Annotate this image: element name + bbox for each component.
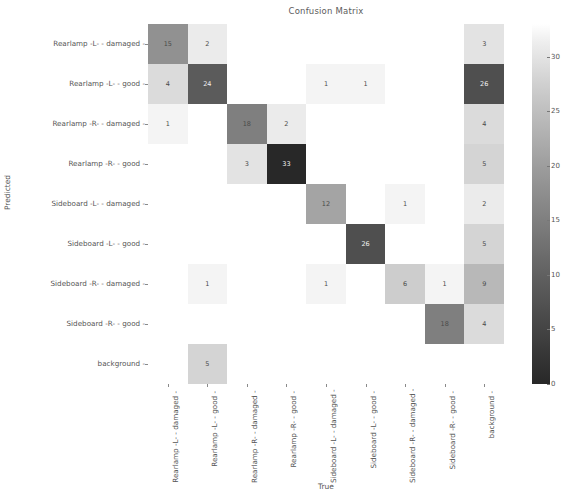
heatmap-cell: 33	[267, 144, 307, 184]
y-tick-mark	[145, 244, 148, 245]
y-tick-label: Rearlamp -L- - damaged -	[6, 39, 148, 48]
heatmap-cell	[227, 304, 267, 344]
heatmap-cell	[346, 304, 386, 344]
heatmap-cell	[148, 304, 188, 344]
y-tick-label: Sideboard -L- - good -	[6, 239, 148, 248]
heatmap-cell	[385, 304, 425, 344]
heatmap-cell	[306, 304, 346, 344]
heatmap-cell	[306, 104, 346, 144]
y-tick-label: background -	[6, 359, 148, 368]
colorbar-tick-label: 0	[551, 380, 555, 388]
heatmap-cell-value: 3	[482, 41, 486, 48]
heatmap-cell	[306, 144, 346, 184]
heatmap-cell: 1	[306, 64, 346, 104]
heatmap-cell: 3	[464, 24, 504, 64]
heatmap-cell	[346, 104, 386, 144]
y-tick-mark	[145, 164, 148, 165]
heatmap-cell: 12	[306, 184, 346, 224]
y-axis-tick-labels: Rearlamp -L- - damaged -Rearlamp -L- - g…	[0, 24, 148, 384]
heatmap-cell	[227, 24, 267, 64]
heatmap-cell	[188, 304, 228, 344]
heatmap-cell	[267, 64, 307, 104]
y-tick-mark	[145, 84, 148, 85]
heatmap-cell-value: 1	[403, 201, 407, 208]
y-tick-mark	[145, 204, 148, 205]
y-tick-label: Rearlamp -R- - damaged -	[6, 119, 148, 128]
heatmap-cell: 9	[464, 264, 504, 304]
heatmap-cell	[385, 224, 425, 264]
heatmap-cell	[227, 344, 267, 384]
x-axis-tick-labels: Rearlamp -L- - damaged -Rearlamp -L- - g…	[148, 384, 504, 479]
y-axis-label: Predicted	[3, 158, 12, 228]
colorbar: 051015202530	[532, 24, 550, 384]
heatmap-cell-value: 1	[324, 281, 328, 288]
heatmap-cell	[385, 24, 425, 64]
heatmap-cell: 2	[464, 184, 504, 224]
heatmap-cell: 4	[148, 64, 188, 104]
heatmap-cell	[464, 344, 504, 384]
x-tick-label: Rearlamp -R- - damaged -	[250, 388, 262, 483]
heatmap-cell	[306, 344, 346, 384]
x-tick-label: background -	[487, 388, 499, 483]
heatmap-cell	[425, 104, 465, 144]
heatmap-cell-value: 18	[441, 321, 449, 328]
heatmap-cell	[148, 224, 188, 264]
heatmap-cell	[267, 264, 307, 304]
heatmap-cell	[425, 64, 465, 104]
heatmap-cell	[188, 104, 228, 144]
heatmap-cell	[385, 144, 425, 184]
heatmap-cell-value: 1	[166, 121, 170, 128]
heatmap-cell-value: 4	[166, 81, 170, 88]
heatmap-cell-value: 3	[245, 161, 249, 168]
heatmap-cell	[425, 144, 465, 184]
y-tick-label: Rearlamp -L- - good -	[6, 79, 148, 88]
heatmap-cell	[267, 184, 307, 224]
heatmap-cell: 1	[425, 264, 465, 304]
y-tick-mark	[145, 44, 148, 45]
heatmap-cell	[267, 304, 307, 344]
heatmap-cell-value: 1	[363, 81, 367, 88]
colorbar-tick-label: 20	[551, 162, 560, 170]
confusion-matrix-figure: Confusion Matrix 15234241126118243335121…	[0, 0, 567, 495]
chart-title: Confusion Matrix	[148, 6, 504, 16]
heatmap-cell: 1	[385, 184, 425, 224]
heatmap-cell: 18	[425, 304, 465, 344]
heatmap-cell	[188, 184, 228, 224]
heatmap-cell	[148, 264, 188, 304]
heatmap-cell: 4	[464, 104, 504, 144]
heatmap-cell	[385, 344, 425, 384]
x-axis-label: True	[148, 482, 504, 491]
y-tick-mark	[145, 124, 148, 125]
heatmap-cell-value: 2	[205, 41, 209, 48]
heatmap-cell: 5	[464, 144, 504, 184]
heatmap-cell	[425, 344, 465, 384]
heatmap-cell-value: 24	[203, 81, 211, 88]
heatmap-cell	[148, 184, 188, 224]
heatmap-cell: 3	[227, 144, 267, 184]
heatmap-cell-value: 5	[482, 161, 486, 168]
x-tick-label: Rearlamp -R- - good -	[289, 388, 301, 483]
heatmap-cell-value: 26	[480, 81, 488, 88]
heatmap-cell-value: 5	[205, 361, 209, 368]
heatmap-cell: 5	[464, 224, 504, 264]
heatmap-cell	[346, 144, 386, 184]
heatmap-cell	[188, 224, 228, 264]
x-tick-mark	[445, 384, 446, 387]
heatmap-cell-value: 6	[403, 281, 407, 288]
heatmap-cell-value: 1	[205, 281, 209, 288]
heatmap-cell-value: 26	[361, 241, 369, 248]
heatmap-cell-value: 18	[243, 121, 251, 128]
heatmap-cell-value: 12	[322, 201, 330, 208]
heatmap-cell-value: 4	[482, 121, 486, 128]
colorbar-tick-label: 15	[551, 216, 560, 224]
heatmap-cell: 24	[188, 64, 228, 104]
heatmap-cell-value: 1	[324, 81, 328, 88]
heatmap-cell: 1	[148, 104, 188, 144]
heatmap-cell	[346, 264, 386, 304]
heatmap-cell	[227, 224, 267, 264]
heatmap-cell-value: 2	[284, 121, 288, 128]
colorbar-tick-label: 30	[551, 53, 560, 61]
heatmap-cell: 26	[346, 224, 386, 264]
heatmap-cell	[425, 224, 465, 264]
heatmap-cell: 5	[188, 344, 228, 384]
